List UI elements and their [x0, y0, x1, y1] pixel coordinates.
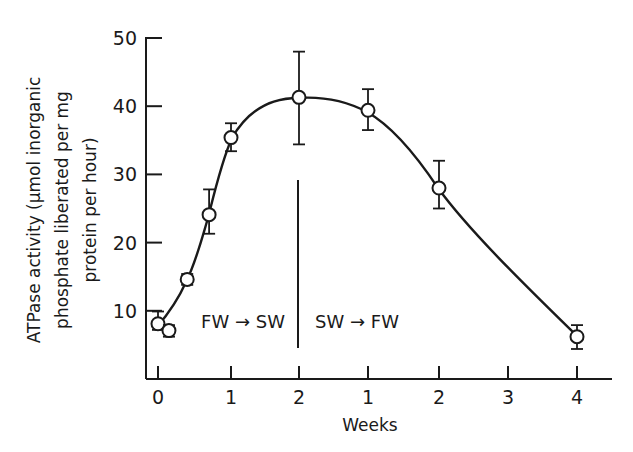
y-tick-label: 50	[113, 27, 137, 49]
open-circle-marker	[433, 182, 446, 195]
data-point	[571, 325, 584, 349]
open-circle-marker	[162, 324, 175, 337]
open-circle-marker	[181, 273, 194, 286]
x-tick-label: 0	[152, 386, 164, 408]
x-tick-label: 4	[571, 386, 583, 408]
x-tick-label: 2	[293, 386, 305, 408]
annotation-sw-to-fw: SW → FW	[315, 311, 399, 332]
data-point	[293, 52, 306, 145]
y-axis-title: ATPase activity (μmol inorganic phosphat…	[24, 77, 100, 344]
y-tick-label: 20	[113, 232, 137, 254]
x-tick-label: 1	[225, 386, 237, 408]
open-circle-marker	[362, 104, 375, 117]
x-axis-title: Weeks	[342, 415, 398, 435]
open-circle-marker	[203, 208, 216, 221]
open-circle-marker	[571, 330, 584, 343]
x-tick-label: 1	[362, 386, 374, 408]
y-tick-label: 40	[113, 95, 137, 117]
y-ticks: 1020304050	[113, 27, 162, 322]
fitted-curve	[157, 98, 577, 336]
y-axis-title-line-2: phosphate liberated per mg	[52, 91, 72, 329]
atpase-activity-chart: 1020304050 0121234 ATPase activity (μmol…	[0, 0, 633, 452]
data-point	[433, 161, 446, 209]
data-point	[162, 324, 175, 337]
data-point	[181, 273, 194, 286]
y-axis-title-line-3: protein per hour)	[80, 137, 100, 282]
y-tick-label: 10	[113, 300, 137, 322]
y-axis-title-line-1: ATPase activity (μmol inorganic	[24, 77, 44, 344]
open-circle-marker	[293, 91, 306, 104]
open-circle-marker	[225, 131, 238, 144]
y-tick-label: 30	[113, 163, 137, 185]
x-ticks: 0121234	[152, 366, 583, 408]
x-tick-label: 2	[433, 386, 445, 408]
x-tick-label: 3	[502, 386, 514, 408]
data-points	[152, 52, 584, 349]
annotation-fw-to-sw: FW → SW	[201, 311, 285, 332]
data-point	[225, 123, 238, 151]
data-point	[362, 89, 375, 130]
